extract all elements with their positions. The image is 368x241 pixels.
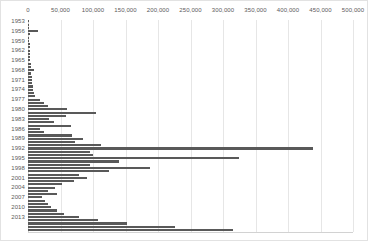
bar [28, 85, 33, 87]
bar [28, 95, 35, 97]
bar [28, 193, 57, 195]
bar [28, 141, 75, 143]
y-tick-label: 1995 [11, 155, 25, 161]
bar [28, 134, 72, 136]
y-tick-label: 1962 [11, 47, 25, 53]
bar [28, 43, 30, 45]
bar [28, 53, 30, 55]
x-tick-label: 50,000 [51, 7, 70, 13]
bar [28, 121, 54, 123]
bar [28, 56, 30, 58]
bar [28, 118, 49, 120]
bar [28, 138, 83, 140]
x-axis-line [28, 232, 353, 233]
y-tick-label: 1968 [11, 67, 25, 73]
bar [28, 76, 32, 78]
y-tick-label: 1980 [11, 106, 25, 112]
bar [28, 89, 33, 91]
x-tick-label: 500,000 [342, 7, 364, 13]
bar [28, 170, 109, 172]
bar [28, 40, 29, 42]
x-tick-label: 250,000 [179, 7, 201, 13]
bar [28, 24, 29, 26]
y-tick-label: 1974 [11, 86, 25, 92]
bar [28, 174, 79, 176]
bar [28, 190, 48, 192]
bar [28, 183, 62, 185]
bar [28, 30, 38, 32]
bar [28, 177, 87, 179]
bar [28, 180, 74, 182]
y-tick-label: 2004 [11, 184, 25, 190]
y-tick-label: 2010 [11, 204, 25, 210]
y-tick-label: 1971 [11, 77, 25, 83]
gridline [353, 20, 354, 232]
bars-layer [28, 20, 353, 232]
bar [28, 33, 30, 35]
bar [28, 66, 31, 68]
bar [28, 108, 67, 110]
y-tick-label: 1998 [11, 165, 25, 171]
y-tick-label: 1959 [11, 38, 25, 44]
y-tick-label: 1977 [11, 96, 25, 102]
x-axis: 050,000100,000150,000200,000250,000300,0… [1, 1, 368, 19]
bar [28, 157, 239, 159]
bar [28, 115, 66, 117]
bar [28, 196, 42, 198]
bar [28, 27, 29, 29]
bar-chart: 050,000100,000150,000200,000250,000300,0… [0, 0, 368, 241]
bar [28, 154, 93, 156]
y-tick-label: 1983 [11, 116, 25, 122]
bar [28, 151, 90, 153]
bar [28, 219, 98, 221]
bar [28, 160, 119, 162]
bar [28, 79, 32, 81]
bar [28, 102, 44, 104]
bar [28, 105, 48, 107]
bar [28, 112, 96, 114]
bar [28, 99, 40, 101]
bar [28, 20, 29, 22]
bar [28, 229, 233, 231]
bar [28, 69, 34, 71]
x-tick-label: 300,000 [212, 7, 234, 13]
plot-area [28, 20, 353, 232]
x-tick-label: 100,000 [82, 7, 104, 13]
x-tick-label: 200,000 [147, 7, 169, 13]
bar [28, 206, 51, 208]
y-tick-label: 2001 [11, 175, 25, 181]
bar [28, 92, 34, 94]
bar [28, 144, 101, 146]
bar [28, 131, 44, 133]
x-tick-label: 0 [26, 7, 29, 13]
bar [28, 187, 55, 189]
bar [28, 167, 150, 169]
bar [28, 147, 313, 149]
bar [28, 128, 40, 130]
x-tick-label: 400,000 [277, 7, 299, 13]
y-tick-label: 1953 [11, 18, 25, 24]
bar [28, 222, 127, 224]
bar [28, 72, 31, 74]
bar [28, 63, 31, 65]
x-tick-label: 350,000 [244, 7, 266, 13]
y-tick-label: 2007 [11, 194, 25, 200]
bar [28, 82, 32, 84]
bar [28, 213, 64, 215]
bar [28, 226, 175, 228]
y-tick-label: 1965 [11, 57, 25, 63]
bar [28, 37, 29, 39]
y-tick-label: 1956 [11, 28, 25, 34]
y-tick-label: 1986 [11, 126, 25, 132]
bar [28, 200, 45, 202]
bar [28, 46, 30, 48]
bar [28, 164, 90, 166]
bar [28, 203, 48, 205]
bar [28, 125, 71, 127]
bar [28, 209, 57, 211]
bar [28, 59, 30, 61]
bar [28, 216, 79, 218]
bar [28, 50, 30, 52]
x-tick-label: 450,000 [309, 7, 331, 13]
y-tick-label: 1992 [11, 145, 25, 151]
